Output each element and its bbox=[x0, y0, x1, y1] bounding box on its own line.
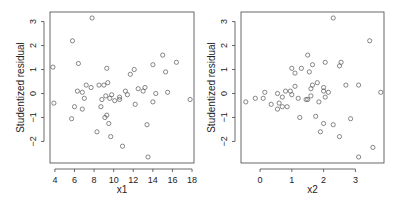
x-tick-label: 1 bbox=[289, 175, 294, 185]
data-point bbox=[331, 123, 335, 127]
data-point bbox=[244, 100, 248, 104]
y-tick-label: 1 bbox=[219, 67, 229, 72]
data-point bbox=[52, 101, 56, 105]
data-point bbox=[143, 85, 147, 89]
data-point bbox=[290, 66, 294, 70]
data-point bbox=[75, 89, 79, 93]
y-axis-label: Studentized residual bbox=[206, 42, 217, 133]
data-point bbox=[106, 81, 110, 85]
data-point bbox=[296, 96, 300, 100]
data-point bbox=[151, 100, 155, 104]
data-point bbox=[379, 90, 383, 94]
data-point bbox=[125, 93, 129, 97]
data-point bbox=[277, 101, 281, 105]
data-point bbox=[164, 70, 168, 74]
data-point bbox=[344, 83, 348, 87]
data-point bbox=[290, 93, 294, 97]
data-point bbox=[322, 121, 326, 125]
x-tick-label: 0 bbox=[258, 175, 263, 185]
data-point bbox=[280, 95, 284, 99]
x-tick-label: 12 bbox=[128, 175, 138, 185]
data-point bbox=[317, 100, 321, 104]
data-point bbox=[105, 66, 109, 70]
x-tick-label: 8 bbox=[92, 175, 97, 185]
y-tick-label: 0 bbox=[28, 91, 38, 96]
data-point bbox=[253, 96, 257, 100]
x-tick-label: 3 bbox=[353, 175, 358, 185]
data-point bbox=[76, 61, 80, 65]
data-point bbox=[174, 60, 178, 64]
data-point bbox=[299, 66, 303, 70]
panel-x1: 4681012141618−2−10123x1Studentized resid… bbox=[15, 12, 197, 195]
data-point bbox=[349, 117, 353, 121]
x-tick-label: 16 bbox=[167, 175, 177, 185]
y-axis-label: Studentized residual bbox=[15, 42, 26, 133]
data-point bbox=[357, 83, 361, 87]
data-point bbox=[331, 16, 335, 20]
data-point bbox=[275, 91, 279, 95]
data-point bbox=[136, 87, 140, 91]
data-point bbox=[293, 84, 297, 88]
data-point bbox=[263, 90, 267, 94]
x-tick-label: 14 bbox=[148, 175, 158, 185]
data-point bbox=[51, 65, 55, 69]
data-point bbox=[309, 94, 313, 98]
x-axis-label: x2 bbox=[307, 184, 318, 195]
data-point bbox=[310, 83, 314, 87]
data-point bbox=[113, 99, 117, 103]
y-tick-label: 2 bbox=[219, 43, 229, 48]
y-tick-label: 1 bbox=[28, 67, 38, 72]
data-point bbox=[306, 53, 310, 57]
data-point bbox=[368, 39, 372, 43]
data-point bbox=[337, 135, 341, 139]
data-point bbox=[318, 130, 322, 134]
data-point bbox=[161, 53, 165, 57]
data-point bbox=[84, 83, 88, 87]
data-point bbox=[371, 145, 375, 149]
data-point bbox=[80, 107, 84, 111]
x-tick-label: 2 bbox=[321, 175, 326, 185]
data-point bbox=[339, 60, 343, 64]
data-point bbox=[133, 102, 137, 106]
data-point bbox=[109, 135, 113, 139]
data-point bbox=[80, 90, 84, 94]
y-tick-label: 3 bbox=[28, 19, 38, 24]
data-point bbox=[95, 130, 99, 134]
data-point bbox=[326, 90, 330, 94]
data-point bbox=[102, 83, 106, 87]
data-point bbox=[293, 71, 297, 75]
x-tick-label: 4 bbox=[52, 175, 57, 185]
data-point bbox=[315, 81, 319, 85]
residual-plots-figure: 4681012141618−2−10123x1Studentized resid… bbox=[0, 0, 405, 204]
x-tick-label: 18 bbox=[187, 175, 197, 185]
data-point bbox=[323, 95, 327, 99]
data-point bbox=[283, 89, 287, 93]
data-point bbox=[154, 91, 158, 95]
y-tick-label: 0 bbox=[219, 91, 229, 96]
data-point bbox=[104, 94, 108, 98]
data-point bbox=[70, 117, 74, 121]
data-point bbox=[72, 105, 76, 109]
data-point bbox=[298, 115, 302, 119]
data-point bbox=[70, 39, 74, 43]
data-point bbox=[166, 90, 170, 94]
y-tick-label: 3 bbox=[219, 19, 229, 24]
data-point bbox=[188, 97, 192, 101]
data-point bbox=[146, 155, 150, 159]
data-point bbox=[151, 63, 155, 67]
x-axis-label: x1 bbox=[117, 184, 128, 195]
data-point bbox=[89, 85, 93, 89]
y-tick-label: −1 bbox=[219, 112, 229, 122]
data-point bbox=[275, 107, 279, 111]
plot-frame bbox=[50, 12, 194, 163]
y-tick-label: −2 bbox=[219, 136, 229, 146]
data-point bbox=[307, 70, 311, 74]
data-point bbox=[100, 97, 104, 101]
data-point bbox=[314, 114, 318, 118]
y-tick-label: −1 bbox=[28, 112, 38, 122]
y-tick-label: 2 bbox=[28, 43, 38, 48]
panel-x2: 0123−2−10123x2Studentized residual bbox=[206, 12, 384, 195]
data-point bbox=[82, 96, 86, 100]
data-point bbox=[323, 60, 327, 64]
data-point bbox=[99, 105, 103, 109]
